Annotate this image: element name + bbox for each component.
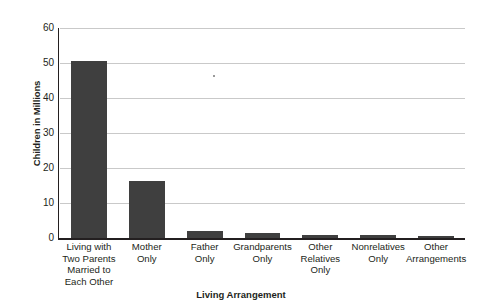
y-axis-tick-labels: 0102030405060	[24, 0, 54, 307]
bar	[245, 233, 281, 238]
bar	[360, 235, 396, 238]
gridline	[60, 168, 465, 169]
gridline	[60, 133, 465, 134]
bar	[302, 235, 338, 238]
bar	[129, 181, 165, 238]
gridline	[60, 28, 465, 29]
x-tick-label-line: Only	[285, 264, 355, 276]
x-tick-label-line: Arrangements	[401, 253, 471, 265]
bar	[187, 231, 223, 238]
bar	[418, 236, 454, 238]
image-artifact-speck	[213, 75, 215, 77]
y-tick-label: 20	[24, 163, 54, 173]
plot-area	[60, 28, 465, 238]
y-tick-label: 60	[24, 23, 54, 33]
bar	[71, 61, 107, 238]
y-tick-label: 0	[24, 233, 54, 243]
x-tick-label-line: Each Other	[54, 276, 124, 288]
gridline	[60, 203, 465, 204]
bar-chart: Children in Millions 0102030405060 Livin…	[0, 0, 482, 307]
x-axis-title: Living Arrangement	[0, 289, 482, 300]
gridline	[60, 98, 465, 99]
x-axis-line	[58, 238, 465, 240]
y-tick-label: 10	[24, 198, 54, 208]
x-axis-tick-labels: Living withTwo ParentsMarried toEach Oth…	[60, 241, 465, 289]
x-tick-label-line: Other	[401, 241, 471, 253]
y-tick-label: 30	[24, 128, 54, 138]
x-tick-label: OtherArrangements	[401, 241, 471, 264]
y-tick-label: 50	[24, 58, 54, 68]
y-tick-label: 40	[24, 93, 54, 103]
x-tick-label-line: Married to	[54, 264, 124, 276]
gridline	[60, 63, 465, 64]
